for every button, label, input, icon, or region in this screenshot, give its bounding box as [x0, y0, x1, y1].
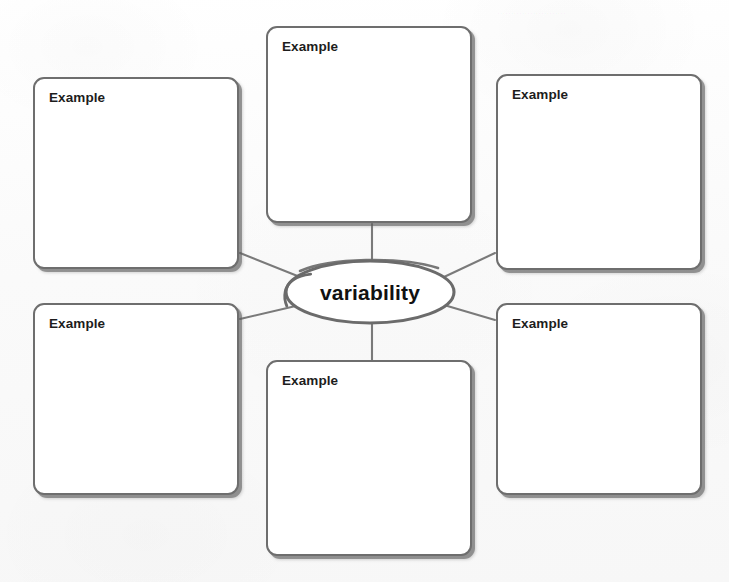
connector-bottom-left	[240, 305, 300, 319]
example-label-bottom-right: Example	[512, 316, 568, 332]
center-term-label: variability	[286, 281, 454, 305]
example-label-top-left: Example	[49, 90, 105, 106]
example-box-top-center[interactable]: Example	[266, 26, 472, 223]
example-box-bottom-left[interactable]: Example	[33, 303, 239, 495]
example-label-bottom-left: Example	[49, 316, 105, 332]
worksheet-page: ......................... ..............…	[0, 0, 729, 582]
example-box-bottom-right[interactable]: Example	[496, 303, 702, 495]
connector-bottom-right	[444, 305, 495, 320]
example-label-top-center: Example	[282, 39, 338, 55]
example-label-bottom-center: Example	[282, 373, 338, 389]
example-box-bottom-center[interactable]: Example	[266, 360, 472, 556]
connector-top-left	[240, 253, 300, 277]
example-box-top-left[interactable]: Example	[33, 77, 239, 269]
example-label-top-right: Example	[512, 87, 568, 103]
example-box-top-right[interactable]: Example	[496, 74, 702, 270]
connector-top-right	[444, 253, 495, 277]
